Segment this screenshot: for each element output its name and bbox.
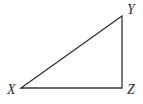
vertex-label-y: Y xyxy=(127,2,137,17)
vertex-label-z: Z xyxy=(127,82,135,97)
triangle-diagram: X Y Z xyxy=(0,0,143,104)
triangle-xyz xyxy=(21,16,122,88)
vertex-label-x: X xyxy=(6,82,16,97)
